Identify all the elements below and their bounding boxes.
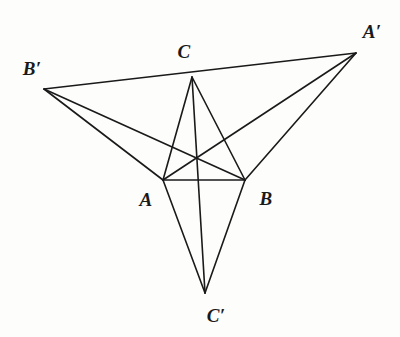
segment-C-to-C-prime [192,77,205,293]
segment-B-to-A-prime [245,53,356,180]
segment-C-to-B [192,77,245,180]
vertex-label-c: C [178,42,191,61]
geometry-figure: A B C A′ B′ C′ [0,0,400,337]
vertex-label-c-prime: C′ [207,306,226,325]
vertex-label-a: A [140,190,153,209]
segments-group [44,53,356,293]
vertex-label-b-prime: B′ [23,59,42,78]
vertex-label-b: B [260,189,273,208]
segment-B-to-C-prime [205,180,245,293]
vertex-label-a-prime: A′ [363,22,382,41]
geometry-canvas [0,0,400,337]
